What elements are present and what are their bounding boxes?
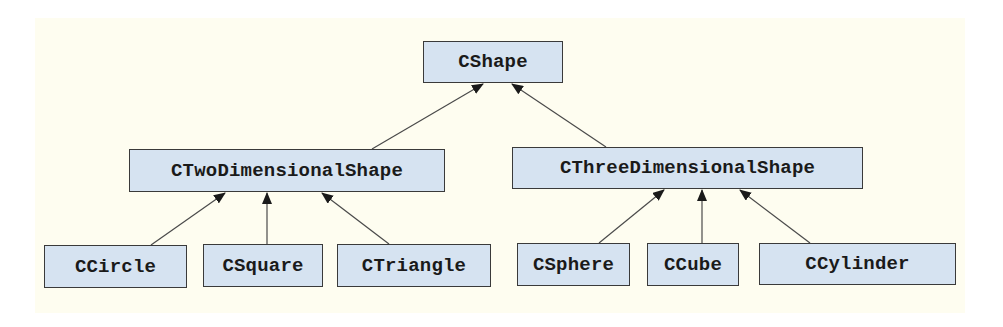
class-node-csquare: CSquare — [203, 244, 323, 287]
class-label: CThreeDimensionalShape — [560, 157, 815, 179]
class-label: CTriangle — [362, 255, 466, 277]
class-label: CShape — [458, 51, 528, 73]
class-node-ctwodimensionalshape: CTwoDimensionalShape — [129, 149, 445, 192]
class-node-ctriangle: CTriangle — [337, 244, 491, 287]
class-node-ccircle: CCircle — [44, 245, 187, 288]
class-node-cthreedimensionalshape: CThreeDimensionalShape — [512, 147, 863, 189]
class-node-csphere: CSphere — [517, 243, 630, 286]
class-label: CSphere — [533, 254, 614, 276]
class-label: CCube — [664, 254, 722, 276]
class-node-ccube: CCube — [647, 243, 739, 286]
class-label: CTwoDimensionalShape — [171, 160, 403, 182]
class-label: CCircle — [75, 256, 156, 278]
class-node-ccylinder: CCylinder — [759, 243, 956, 285]
class-node-cshape: CShape — [423, 41, 563, 83]
class-label: CSquare — [222, 255, 303, 277]
class-label: CCylinder — [805, 253, 909, 275]
